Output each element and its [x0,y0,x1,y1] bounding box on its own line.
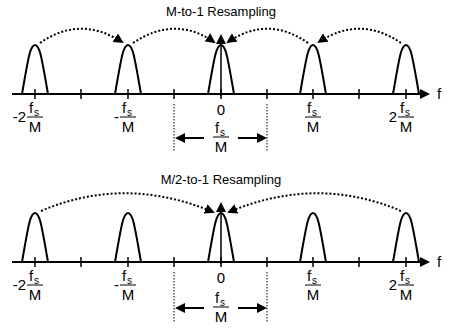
svg-text:-2: -2 [13,108,26,125]
svg-text:M: M [215,308,228,325]
svg-text:-2: -2 [13,276,26,293]
svg-text:M: M [122,286,135,303]
arc-minus2-to-zero [41,193,213,212]
lobe-minus-2 [22,213,48,262]
svg-text:s: s [312,275,317,286]
arc-minus2-to-minus1 [40,29,122,43]
svg-text:M: M [307,286,320,303]
svg-text:s: s [220,297,225,308]
svg-text:s: s [405,275,410,286]
svg-text:s: s [127,275,132,286]
panel-title: M-to-1 Resampling [166,4,276,19]
svg-text:s: s [220,127,225,138]
lobe-minus-1 [115,45,141,94]
svg-text:M: M [307,118,320,135]
axis-label-f: f [437,85,442,102]
axis-label-f: f [437,253,442,270]
svg-text:M: M [400,286,413,303]
svg-text:s: s [405,107,410,118]
svg-text:M: M [400,118,413,135]
svg-text:M: M [215,138,228,155]
tick-label-minus-1: - f s M [114,99,136,135]
tick-label-plus-2: 2 f s M [389,99,414,135]
svg-text:-: - [114,108,119,125]
svg-text:s: s [34,275,39,286]
arc-plus2-to-plus1 [319,29,401,43]
lobe-plus-1 [300,213,326,262]
svg-text:2: 2 [389,276,397,293]
tick-label-zero: 0 [217,269,225,286]
panel-m-to-1: M-to-1 Resampling f [12,4,442,155]
tick-label-minus-2: -2 f s M [13,99,43,135]
panel-title: M/2-to-1 Resampling [161,172,282,187]
svg-text:s: s [127,107,132,118]
lobe-minus-1 [115,213,141,262]
arc-minus1-to-zero [133,29,214,43]
tick-label-minus-1: - f s M [114,267,136,303]
lobe-minus-2 [22,45,48,94]
svg-text:s: s [312,107,317,118]
resampling-diagram: M-to-1 Resampling f [0,0,453,332]
svg-text:2: 2 [389,108,397,125]
svg-text:-: - [114,276,119,293]
arc-plus1-to-zero [228,29,308,43]
arc-plus2-to-zero [229,193,401,212]
tick-label-plus-1: f s M [305,267,321,303]
tick-label-plus-2: 2 f s M [389,267,414,303]
lobe-plus-2 [393,45,419,94]
tick-label-zero: 0 [217,101,225,118]
svg-text:M: M [122,118,135,135]
lobe-plus-1 [300,45,326,94]
lobe-plus-2 [393,213,419,262]
tick-label-minus-2: -2 f s M [13,267,43,303]
svg-text:s: s [34,107,39,118]
panel-m-half-to-1: M/2-to-1 Resampling f -2 [12,172,442,325]
tick-label-plus-1: f s M [305,99,321,135]
svg-text:M: M [29,286,42,303]
svg-text:M: M [29,118,42,135]
